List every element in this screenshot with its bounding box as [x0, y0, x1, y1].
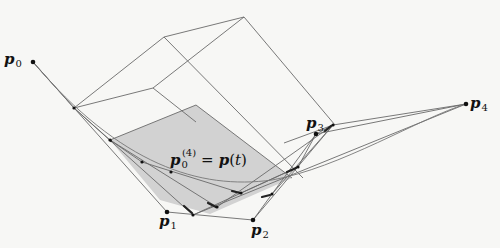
label-base: p — [170, 151, 181, 169]
label-subscript: 0 — [16, 58, 22, 69]
label-base: p — [159, 212, 170, 230]
intermediate-point — [239, 191, 242, 194]
label-p0: p0 — [4, 52, 22, 69]
label-base: p — [306, 114, 317, 132]
label-base: p — [251, 221, 262, 239]
label-p2: p2 — [251, 223, 269, 240]
intermediate-point — [140, 160, 143, 163]
intermediate-point — [215, 205, 218, 208]
intermediate-point — [296, 165, 299, 168]
casteljau-line — [298, 134, 316, 167]
label-subscript: 4 — [482, 102, 488, 113]
label-p1: p1 — [159, 214, 177, 231]
diagram-svg — [0, 0, 500, 248]
label-subscript: 3 — [318, 122, 324, 133]
label-rhs-base: p — [219, 151, 230, 169]
curve-point-pt — [169, 170, 172, 173]
intermediate-point — [72, 106, 75, 109]
intermediate-point — [331, 123, 334, 126]
cube-edge — [244, 17, 335, 125]
label-curve-point: p0(4)=p(t) — [170, 153, 247, 170]
label-p4: p4 — [470, 96, 488, 113]
control-point-p0 — [31, 60, 36, 65]
label-subscript: 0 — [182, 159, 188, 170]
intermediate-point — [108, 138, 111, 141]
intermediate-point — [191, 213, 194, 216]
label-subscript: 1 — [171, 220, 177, 231]
label-subscript: 2 — [263, 229, 269, 240]
arrow-icon — [262, 195, 270, 197]
control-point-p4 — [464, 102, 469, 107]
label-base: p — [470, 94, 481, 112]
cube-edge — [74, 17, 244, 108]
label-base: p — [4, 50, 15, 68]
diagram-canvas: p0 p1 p2 p3 p4 p0(4)=p(t) — [0, 0, 500, 248]
label-p3: p3 — [306, 116, 324, 133]
intermediate-point — [270, 192, 273, 195]
cube-edge — [74, 17, 244, 108]
label-superscript: (4) — [182, 147, 196, 158]
equals-sign: = — [201, 151, 214, 169]
casteljau-line — [333, 104, 466, 125]
casteljau-line — [74, 108, 110, 140]
close-paren: ) — [241, 151, 247, 169]
